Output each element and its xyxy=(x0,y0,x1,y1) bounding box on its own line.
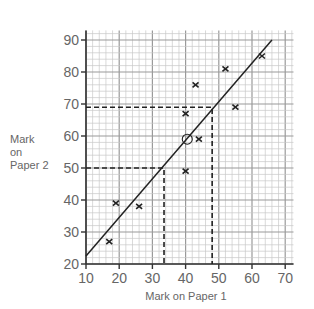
data-point-cross xyxy=(232,105,238,110)
svg-text:50: 50 xyxy=(63,160,79,176)
data-point-cross xyxy=(113,201,119,206)
svg-text:60: 60 xyxy=(63,128,79,144)
y-label-line-2: on xyxy=(10,146,49,159)
svg-text:70: 70 xyxy=(63,96,79,112)
svg-text:80: 80 xyxy=(63,64,79,80)
svg-text:20: 20 xyxy=(63,256,79,272)
svg-text:40: 40 xyxy=(63,192,79,208)
svg-text:30: 30 xyxy=(145,270,161,286)
svg-text:70: 70 xyxy=(277,270,293,286)
data-point-cross xyxy=(106,239,112,244)
svg-text:20: 20 xyxy=(111,270,127,286)
svg-text:50: 50 xyxy=(211,270,227,286)
svg-text:60: 60 xyxy=(244,270,260,286)
grid xyxy=(86,30,294,264)
data-point-cross xyxy=(259,54,265,59)
y-label-line-1: Mark xyxy=(10,133,49,146)
svg-text:30: 30 xyxy=(63,224,79,240)
y-label-line-3: Paper 2 xyxy=(10,159,49,172)
x-axis-label: Mark on Paper 1 xyxy=(0,290,314,302)
svg-text:10: 10 xyxy=(78,270,94,286)
svg-text:40: 40 xyxy=(178,270,194,286)
svg-text:90: 90 xyxy=(63,32,79,48)
y-axis-label: Mark on Paper 2 xyxy=(10,133,49,172)
